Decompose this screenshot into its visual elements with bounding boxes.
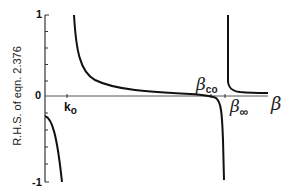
beta-inf-base: β xyxy=(230,96,240,116)
beta-inf-sub: ∞ xyxy=(240,105,249,119)
beta-co-base: β xyxy=(196,74,206,94)
curve-branch-1 xyxy=(45,116,62,182)
curve-branch-2 xyxy=(74,15,224,180)
beta-co-label: βco xyxy=(196,74,218,94)
beta-inf-label: β∞ xyxy=(230,96,248,116)
k-o-label: ko xyxy=(64,100,77,114)
x-axis-label: β xyxy=(271,93,281,114)
k-o-base: k xyxy=(64,100,71,114)
y-tick-neg1: -1 xyxy=(32,176,42,188)
plot-area xyxy=(0,0,296,192)
curve-branch-3 xyxy=(228,15,268,93)
beta-co-sub: co xyxy=(206,84,218,95)
y-axis-label: R.H.S. of eqn. 2.376 xyxy=(11,16,25,176)
k-o-sub: o xyxy=(71,105,77,116)
y-tick-1: 1 xyxy=(36,8,42,20)
y-tick-0: 0 xyxy=(35,89,41,101)
